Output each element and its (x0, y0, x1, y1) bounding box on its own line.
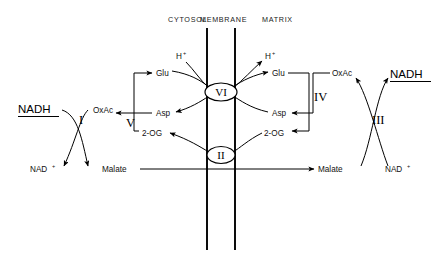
metabolite-glu-cytosol: Glu (156, 69, 169, 78)
arrow-carrier-to-glu-matrix (233, 72, 268, 87)
metabolite-oxac-cytosol: OxAc (93, 106, 113, 115)
metabolite-asp-cytosol: Asp (156, 109, 171, 118)
metabolite-nad-cytosol: NAD (30, 165, 47, 174)
metabolite-2og-cytosol: 2-OG (142, 129, 162, 138)
enzyme-label-III: III (372, 113, 385, 127)
enzyme-IV-reaction: IV (288, 73, 330, 131)
metabolite-h-matrix: H (265, 52, 271, 61)
metabolite-nadh-matrix: NADH (390, 68, 423, 80)
transporter-label-VI: VI (215, 86, 227, 98)
arrow-glu-to-2og (288, 73, 309, 131)
malate-aspartate-shuttle-diagram: CYTOSOL MEMBRANE MATRIX I III V (0, 0, 443, 260)
enzyme-V-reaction: V (116, 73, 152, 131)
arrow-2og-to-glu (134, 73, 152, 131)
path-asp-matrix-into-carrier (233, 96, 268, 112)
path-h-cytosol-into-carrier (186, 62, 209, 88)
metabolite-asp-matrix: Asp (272, 109, 287, 118)
metabolite-h-cytosol-charge: + (183, 50, 186, 56)
compartment-labels: CYTOSOL MEMBRANE MATRIX (168, 15, 293, 24)
shuttle-canvas: CYTOSOL MEMBRANE MATRIX I III V (0, 0, 443, 260)
enzyme-I-reaction: I (62, 110, 88, 166)
enzyme-label-V: V (126, 116, 135, 130)
metabolite-malate-cytosol: Malate (102, 165, 127, 174)
metabolite-nadh-cytosol: NADH (18, 103, 51, 115)
arrow-carrier-to-2og-cytosol (170, 133, 209, 152)
arrow-oxac-to-nad (64, 110, 88, 166)
compartment-label-membrane: MEMBRANE (200, 15, 247, 24)
metabolite-glu-matrix: Glu (272, 69, 285, 78)
transporter-II-flows: II (140, 133, 314, 169)
membrane-bilayer (207, 28, 235, 250)
metabolite-h-matrix-charge: + (272, 50, 275, 56)
enzyme-label-IV: IV (314, 90, 327, 104)
enzyme-label-I: I (79, 113, 83, 127)
transporter-VI-flows: VI (172, 61, 268, 112)
arrow-carrier-to-asp-cytosol (176, 96, 209, 112)
transporter-label-II: II (217, 149, 225, 161)
path-glu-cytosol-into-carrier (172, 71, 209, 87)
metabolite-2og-matrix: 2-OG (264, 129, 284, 138)
compartment-label-matrix: MATRIX (262, 15, 293, 24)
metabolite-h-cytosol: H (176, 52, 182, 61)
metabolite-nad-matrix: NAD (385, 165, 402, 174)
enzyme-III-reaction: III (356, 78, 388, 166)
metabolite-oxac-matrix: OxAc (332, 69, 352, 78)
metabolite-nad-matrix-charge: + (407, 163, 410, 169)
metabolite-nad-cytosol-charge: + (52, 163, 55, 169)
path-2og-matrix-into-carrier (233, 133, 262, 152)
metabolite-malate-matrix: Malate (318, 165, 343, 174)
